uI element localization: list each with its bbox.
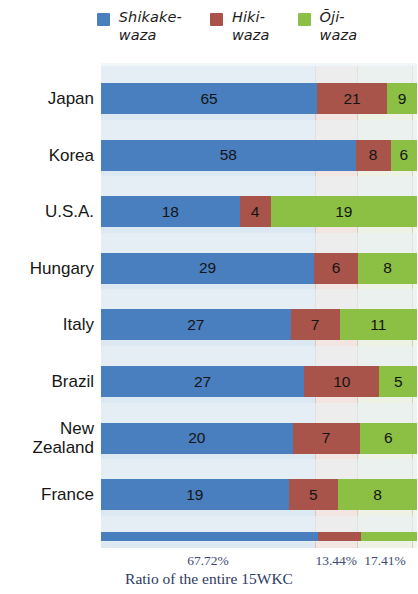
category-label: Japan xyxy=(0,89,94,108)
category-label: New Zealand xyxy=(0,419,94,457)
bar-segment: 21 xyxy=(317,83,387,114)
bar-segment: 9 xyxy=(387,83,417,114)
bar-value-label: 5 xyxy=(394,373,403,391)
bar-segment: 8 xyxy=(358,253,417,284)
bar-segment: 27 xyxy=(101,309,291,340)
totals-bar-segment xyxy=(101,532,318,541)
legend-swatch-brown xyxy=(210,13,223,26)
bar-value-label: 8 xyxy=(369,146,378,164)
bar-segment: 10 xyxy=(304,366,379,397)
totals-bar-segment xyxy=(361,532,417,541)
bar-value-label: 6 xyxy=(332,259,341,277)
bar-value-label: 9 xyxy=(398,90,407,108)
bar-value-label: 58 xyxy=(220,146,237,164)
bar-row: 1958 xyxy=(101,479,417,510)
bar-segment: 65 xyxy=(101,83,317,114)
bar-value-label: 19 xyxy=(186,486,203,504)
legend-item: Hiki- waza xyxy=(210,8,270,44)
bar-value-label: 21 xyxy=(344,90,361,108)
bar-segment: 58 xyxy=(101,140,356,171)
bar-value-label: 27 xyxy=(187,316,204,334)
bar-segment: 6 xyxy=(314,253,358,284)
category-label: France xyxy=(0,485,94,504)
bar-value-label: 27 xyxy=(194,373,211,391)
category-label: U.S.A. xyxy=(0,202,94,221)
bar-segment: 11 xyxy=(340,309,417,340)
legend-item-label: Shikake- waza xyxy=(119,8,182,44)
bar-value-label: 8 xyxy=(383,259,392,277)
bar-segment: 6 xyxy=(391,140,417,171)
bar-segment: 4 xyxy=(240,196,271,227)
bar-row: 27711 xyxy=(101,309,417,340)
bar-segment: 20 xyxy=(101,423,293,454)
bar-value-label: 65 xyxy=(200,90,217,108)
bar-segment: 19 xyxy=(271,196,417,227)
bar-value-label: 11 xyxy=(370,316,386,334)
legend-item: Shikake- waza xyxy=(97,8,182,44)
bar-segment: 18 xyxy=(101,196,240,227)
bar-segment: 8 xyxy=(338,479,417,510)
percent-label: 13.44% xyxy=(310,553,362,569)
bar-segment: 19 xyxy=(101,479,289,510)
bar-segment: 6 xyxy=(360,423,417,454)
category-label: Korea xyxy=(0,146,94,165)
chart-plot-area: 652195886184192968277112710520761958 xyxy=(101,66,417,548)
bar-segment: 27 xyxy=(101,366,304,397)
category-label: Brazil xyxy=(0,372,94,391)
bar-value-label: 6 xyxy=(400,146,409,164)
bar-value-label: 4 xyxy=(251,203,260,221)
bar-row: 65219 xyxy=(101,83,417,114)
bar-row: 18419 xyxy=(101,196,417,227)
bar-segment: 5 xyxy=(289,479,338,510)
legend-item-label: Ōji- waza xyxy=(320,8,358,44)
bars-layer: 652195886184192968277112710520761958 xyxy=(101,66,417,548)
bar-value-label: 5 xyxy=(309,486,318,504)
legend-item: Ōji- waza xyxy=(298,8,358,44)
legend-swatch-green xyxy=(298,13,311,26)
legend-swatch-blue xyxy=(97,13,110,26)
bar-segment: 8 xyxy=(356,140,391,171)
bar-value-label: 6 xyxy=(384,429,393,447)
axis-caption: Ratio of the entire 15WKC xyxy=(0,570,418,588)
bar-value-label: 20 xyxy=(188,429,205,447)
percent-label: 67.72% xyxy=(182,553,234,569)
bar-value-label: 19 xyxy=(335,203,352,221)
bar-value-label: 8 xyxy=(373,486,382,504)
bar-row: 5886 xyxy=(101,140,417,171)
legend-item-label: Hiki- waza xyxy=(232,8,270,44)
bar-segment: 5 xyxy=(379,366,417,397)
bar-row: 2968 xyxy=(101,253,417,284)
bar-value-label: 7 xyxy=(311,316,320,334)
totals-bar-row xyxy=(101,532,417,541)
bar-segment: 7 xyxy=(291,309,340,340)
bar-value-label: 29 xyxy=(199,259,216,277)
bar-segment: 7 xyxy=(293,423,360,454)
bar-value-label: 18 xyxy=(162,203,179,221)
bar-value-label: 7 xyxy=(322,429,331,447)
bar-row: 2076 xyxy=(101,423,417,454)
legend: Shikake- wazaHiki- wazaŌji- waza xyxy=(0,8,418,60)
totals-bar-segment xyxy=(318,532,361,541)
bar-row: 27105 xyxy=(101,366,417,397)
percent-label: 17.41% xyxy=(359,553,411,569)
category-label: Hungary xyxy=(0,259,94,278)
category-label: Italy xyxy=(0,315,94,334)
bar-segment: 29 xyxy=(101,253,314,284)
bar-value-label: 10 xyxy=(333,373,350,391)
